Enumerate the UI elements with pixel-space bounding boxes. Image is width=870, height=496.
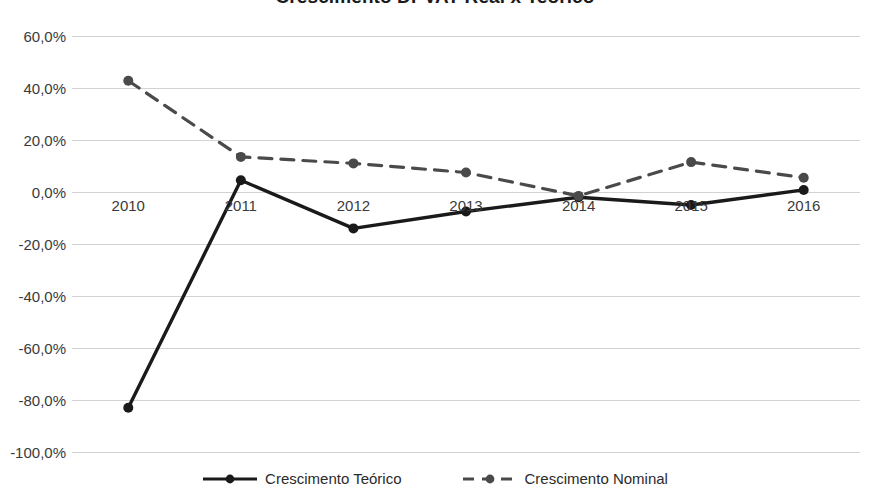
y-axis-tick-label: -100,0% (0, 444, 66, 461)
x-axis-tick-label: 2013 (449, 197, 482, 214)
data-point-marker (348, 158, 358, 168)
legend-label: Crescimento Nominal (525, 470, 668, 487)
x-axis-tick-label: 2012 (337, 197, 370, 214)
data-point-marker (686, 157, 696, 167)
x-axis-tick-label: 2014 (562, 197, 595, 214)
x-axis-tick-label: 2015 (674, 197, 707, 214)
x-axis-tick-labels: 2010201120122013201420152016 (72, 197, 860, 217)
y-axis-tick-label: 0,0% (0, 184, 66, 201)
legend-swatch-icon (202, 472, 258, 486)
data-point-marker (236, 175, 246, 185)
x-axis-tick-label: 2016 (787, 197, 820, 214)
data-point-marker (123, 403, 133, 413)
chart-title: Crescimento DPVAT Real x Teórico (0, 0, 870, 8)
y-axis-tick-labels: 60,0%40,0%20,0%0,0%-20,0%-40,0%-60,0%-80… (0, 36, 66, 452)
line-chart: Crescimento DPVAT Real x Teórico 60,0%40… (0, 0, 870, 496)
y-axis-tick-label: 60,0% (0, 28, 66, 45)
data-point-marker (461, 168, 471, 178)
y-axis-tick-label: -40,0% (0, 288, 66, 305)
y-axis-tick-label: -20,0% (0, 236, 66, 253)
series-layer (72, 36, 860, 452)
chart-legend: Crescimento TeóricoCrescimento Nominal (0, 470, 870, 487)
data-point-marker (799, 185, 809, 195)
y-axis-tick-label: 40,0% (0, 80, 66, 97)
data-point-marker (236, 152, 246, 162)
legend-label: Crescimento Teórico (265, 470, 401, 487)
data-point-marker (799, 173, 809, 183)
y-axis-tick-label: -80,0% (0, 392, 66, 409)
data-point-marker (348, 223, 358, 233)
y-axis-tick-label: 20,0% (0, 132, 66, 149)
data-point-marker (123, 76, 133, 86)
x-axis-tick-label: 2010 (112, 197, 145, 214)
plot-area (72, 36, 860, 452)
series-line-2 (128, 81, 803, 196)
y-axis-tick-label: -60,0% (0, 340, 66, 357)
legend-item-2[interactable]: Crescimento Nominal (462, 470, 668, 487)
gridline (72, 452, 860, 453)
legend-swatch-icon (462, 472, 518, 486)
legend-item-1[interactable]: Crescimento Teórico (202, 470, 401, 487)
x-axis-tick-label: 2011 (225, 197, 257, 214)
